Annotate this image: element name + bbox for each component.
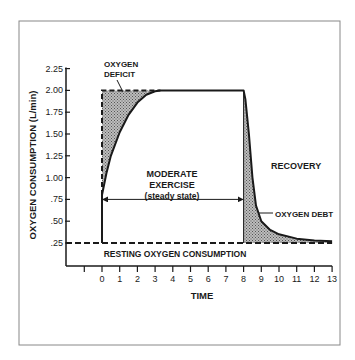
x-tick-label: 7	[223, 274, 228, 284]
x-tick-label: 1	[117, 274, 122, 284]
y-tick-label: 2.00	[45, 85, 63, 95]
y-tick-label: 2.25	[45, 64, 63, 74]
annotation-moderate: MODERATE	[147, 169, 198, 179]
x-tick-label: 0	[99, 274, 104, 284]
x-tick-label: 6	[206, 274, 211, 284]
annotation-oxygen-deficit-1: OXYGEN	[104, 60, 138, 69]
x-tick-label: 3	[153, 274, 158, 284]
annotation-oxygen-debt: OXYGEN DEBT	[275, 210, 333, 219]
x-axis-label: TIME	[191, 290, 214, 301]
annotation-exercise: EXERCISE	[149, 180, 195, 190]
y-tick-label: .50	[50, 216, 63, 226]
y-tick-label: .25	[50, 238, 63, 248]
x-tick-label: 12	[309, 274, 319, 284]
oxygen-deficit-region	[102, 90, 160, 243]
x-tick-label: 10	[274, 274, 284, 284]
y-tick-label: 1.00	[45, 173, 63, 183]
annotation-resting: RESTING OXYGEN CONSUMPTION	[104, 249, 247, 259]
annotation-recovery: RECOVERY	[271, 161, 321, 171]
chart: .25.50.751.001.251.501.752.002.250123456…	[0, 0, 355, 360]
x-tick-label: 8	[241, 274, 246, 284]
x-tick-label: 2	[135, 274, 140, 284]
y-axis-label: OXYGEN CONSUMPTION (L/min)	[27, 91, 38, 240]
x-tick-label: 5	[188, 274, 193, 284]
annotation-steady-state: (steady state)	[145, 191, 200, 201]
x-tick-label: 13	[327, 274, 337, 284]
y-tick-label: .75	[50, 194, 63, 204]
annotation-oxygen-deficit-2: DEFICIT	[104, 70, 135, 79]
y-tick-label: 1.75	[45, 107, 63, 117]
y-tick-label: 1.50	[45, 129, 63, 139]
x-tick-label: 11	[292, 274, 301, 284]
y-tick-label: 1.25	[45, 151, 63, 161]
x-tick-label: 4	[170, 274, 175, 284]
x-tick-label: 9	[259, 274, 264, 284]
